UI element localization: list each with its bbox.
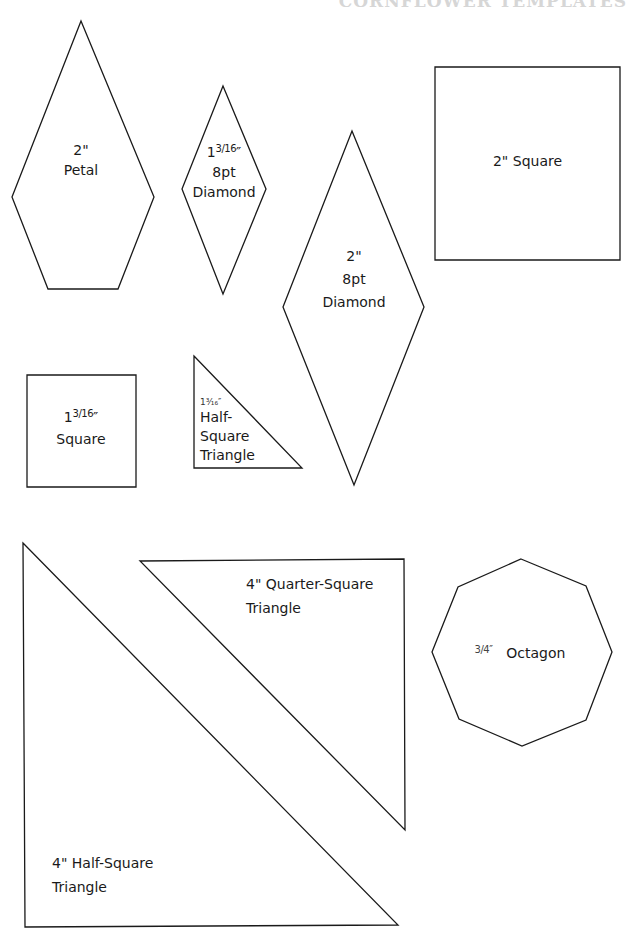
large-hst-label: 4" Half-Square Triangle <box>52 851 202 899</box>
small-square-label: 13/16″ Square <box>40 403 122 450</box>
small-diamond-label: 13/16″ 8pt Diamond <box>188 139 260 202</box>
large-diamond-size: 2" <box>314 245 394 268</box>
large-diamond-name: Diamond <box>314 291 394 314</box>
small-hst-size: 1³⁄₁₆″ <box>200 396 270 408</box>
octagon-size: 3/4 <box>475 640 490 660</box>
small-diamond-size: 13/16″ <box>188 139 260 162</box>
large-square-label: 2" Square <box>470 151 585 171</box>
octagon-name: Octagon <box>506 645 565 661</box>
qst-label: 4" Quarter-Square Triangle <box>246 572 406 620</box>
petal-size: 2" <box>43 140 119 160</box>
small-square-name: Square <box>40 428 122 450</box>
large-diamond-label: 2" 8pt Diamond <box>314 245 394 314</box>
large-diamond-type: 8pt <box>314 268 394 291</box>
petal-label: 2" Petal <box>43 140 119 180</box>
octagon-label: 3/4″ Octagon <box>460 640 580 663</box>
small-hst-label: 1³⁄₁₆″ Half- Square Triangle <box>200 396 270 465</box>
small-square-size: 13/16″ <box>40 403 122 428</box>
small-diamond-type: 8pt <box>188 162 260 182</box>
petal-name: Petal <box>43 160 119 180</box>
small-diamond-name: Diamond <box>188 182 260 202</box>
